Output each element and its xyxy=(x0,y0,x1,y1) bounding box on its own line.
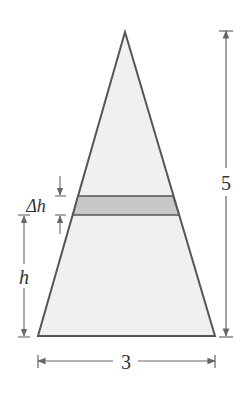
height-total-label: 5 xyxy=(221,172,231,194)
base-dimension: 3 xyxy=(38,351,215,373)
slice-thickness-label: Δh xyxy=(25,196,46,216)
slice-height-dimension: h xyxy=(18,215,30,337)
height-dimension: 5 xyxy=(219,31,233,337)
triangle-diagram: 5 3 Δh h xyxy=(0,0,246,395)
shaded-slice xyxy=(73,196,179,215)
slice-thickness-dimension: Δh xyxy=(25,176,66,234)
triangle xyxy=(38,32,215,336)
slice-height-label: h xyxy=(19,266,29,288)
base-width-label: 3 xyxy=(121,351,131,373)
